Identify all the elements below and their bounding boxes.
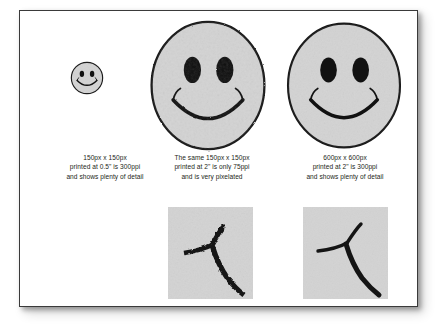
caption-right-line-1: 600px x 600px [275,153,415,162]
smiley-face-pixelated [148,18,268,153]
caption-middle: The same 150px x 150px printed at 2" is … [142,153,282,181]
figure-frame: 150px x 150px printed at 0.5" is 300ppi … [19,10,418,307]
smiley-face-small [70,61,104,95]
figure-inner: 150px x 150px printed at 0.5" is 300ppi … [20,11,417,306]
caption-right-line-3: and shows plenty of detail [275,172,415,181]
detail-crop-pixelated [168,207,253,299]
caption-middle-line-3: and is very pixelated [142,172,282,181]
caption-middle-line-2: printed at 2" is only 75ppi [142,162,282,171]
smiley-face-smooth [284,20,404,151]
caption-right: 600px x 600px printed at 2" is 300ppi an… [275,153,415,181]
caption-middle-line-1: The same 150px x 150px [142,153,282,162]
figure-stage: 150px x 150px printed at 0.5" is 300ppi … [0,0,438,326]
caption-right-line-2: printed at 2" is 300ppi [275,162,415,171]
detail-crop-smooth [303,207,388,299]
